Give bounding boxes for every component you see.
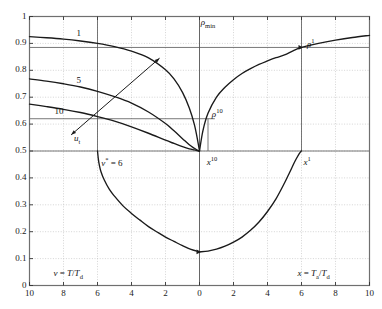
x-10-label: x10 [207,154,218,167]
annotation-arrow-layer [71,58,159,135]
y-tick-label: 0.6 [15,119,26,128]
y-tick-label: 0.7 [15,92,26,101]
x-tick-label: 6 [88,289,108,298]
chart-figure [0,0,382,309]
x-tick-label: 4 [122,289,142,298]
x-tick-label: 4 [258,289,278,298]
y-tick-label: 0.5 [15,146,26,155]
x-tick-label: 0 [190,289,210,298]
y-tick-label: 0.3 [15,200,26,209]
x-1-label: x1 [304,154,311,167]
y-tick-label: 0.8 [15,65,26,74]
u-t-label: ut [74,133,80,147]
curve-label-10: 10 [54,106,63,116]
x-axis-title-left: v = T/Td [54,268,83,280]
y-tick-label: 0.1 [15,254,26,263]
x-tick-label: 8 [54,289,74,298]
x-axis-title-right: x = Ta/Td [298,268,330,280]
y-tick-label: 0.9 [15,38,26,47]
x-tick-label: 8 [326,289,346,298]
rho-10-label: ρ10 [212,106,223,119]
y-tick-label: 1 [22,12,27,21]
curve-label-1: 1 [77,28,82,38]
y-tick-label: 0.4 [15,173,26,182]
x-tick-label: 10 [360,289,380,298]
x-tick-label: 2 [224,289,244,298]
u-t-arrow-line [71,58,159,135]
y-tick-label: 0.2 [15,227,26,236]
rho-1-label: ρ1 [307,36,315,49]
v-star-label: v* = 6 [101,155,122,168]
marker-rho-1 [299,45,304,50]
x-tick-label: 6 [292,289,312,298]
marker-u-min [197,249,202,254]
curve-label-5: 5 [77,75,82,85]
rho-min-label: ρmin [201,17,215,31]
x-tick-label: 10 [20,289,40,298]
x-tick-label: 2 [156,289,176,298]
curve-rho [200,35,370,151]
chart-root: 00.10.20.30.40.50.60.70.80.91 1086420246… [0,0,382,309]
curve-1 [30,37,200,151]
